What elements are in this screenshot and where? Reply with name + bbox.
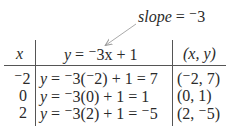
row-1-pair: (⁻2, 7) xyxy=(177,69,220,88)
row-1-x: ⁻2 xyxy=(14,69,30,88)
row-3-pair: (2, ⁻5) xyxy=(177,104,220,123)
header-x: x xyxy=(16,45,23,63)
slope-value: = ⁻3 xyxy=(172,8,205,25)
row-2-x: 0 xyxy=(19,87,27,105)
header-pair: (x, y) xyxy=(183,45,216,63)
slope-label: slope xyxy=(138,8,172,25)
row-1-calc: y = ⁻3(⁻2) + 1 = 7 xyxy=(40,69,158,88)
row-3-calc: y = ⁻3(2) + 1 = ⁻5 xyxy=(40,104,158,123)
row-3-x: 2 xyxy=(19,104,27,122)
header-equation: y = ⁻3x + 1 xyxy=(64,45,138,64)
column-divider-1 xyxy=(35,40,36,126)
slope-annotation: slope = ⁻3 xyxy=(138,7,205,26)
column-divider-2 xyxy=(172,40,173,126)
header-divider xyxy=(4,65,226,66)
row-2-pair: (0, 1) xyxy=(177,87,212,105)
